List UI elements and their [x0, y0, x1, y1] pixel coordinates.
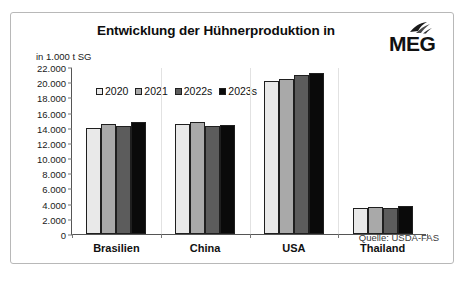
- y-axis-tick-label: 22.000: [37, 63, 66, 74]
- x-axis-category-label: China: [190, 242, 221, 254]
- chart-card: Entwicklung der Hühnerproduktion in MEG …: [10, 12, 454, 264]
- plot-frame: 02.0004.0006.0008.00010.00012.00014.0001…: [71, 68, 426, 235]
- y-axis-unit-label: in 1.000 t SG: [36, 51, 91, 62]
- bar-group: [161, 68, 250, 234]
- meg-wordmark: MEG: [389, 33, 435, 54]
- bar: [368, 207, 383, 234]
- bar: [220, 125, 235, 234]
- meg-logo: MEG: [389, 20, 441, 56]
- y-axis-tick-label: 20.000: [37, 78, 66, 89]
- page-title: Entwicklung der Hühnerproduktion in: [51, 23, 381, 38]
- bar: [264, 81, 279, 234]
- bar-group: [338, 68, 427, 234]
- bar: [398, 206, 413, 234]
- bar: [279, 79, 294, 234]
- x-axis-tick-mark: [338, 234, 339, 238]
- x-axis-tick-mark: [161, 234, 162, 238]
- bar-group: [72, 68, 161, 234]
- bar: [205, 126, 220, 234]
- bar: [353, 208, 368, 234]
- bar: [309, 73, 324, 234]
- y-axis-tick-label: 6.000: [42, 184, 66, 195]
- bar: [116, 126, 131, 234]
- y-axis-tick-label: 10.000: [37, 154, 66, 165]
- plot-area: 02.0004.0006.0008.00010.00012.00014.0001…: [71, 68, 426, 235]
- y-axis-tick-label: 2.000: [42, 214, 66, 225]
- bar: [294, 75, 309, 234]
- bar: [383, 208, 398, 234]
- bar: [101, 124, 116, 234]
- x-axis-category-label: Brasilien: [93, 242, 139, 254]
- bar-group: [250, 68, 339, 234]
- x-axis-category-label: USA: [282, 242, 305, 254]
- y-axis-tick-label: 16.000: [37, 108, 66, 119]
- y-axis-tick-label: 0: [61, 230, 66, 241]
- bar: [131, 122, 146, 234]
- source-note: Quelle: USDA-FAS: [359, 232, 439, 243]
- x-axis-tick-mark: [250, 234, 251, 238]
- x-axis-category-label: Thailand: [360, 242, 405, 254]
- bar: [190, 122, 205, 234]
- y-axis-tick-label: 8.000: [42, 169, 66, 180]
- bar: [86, 128, 101, 234]
- y-axis-tick-label: 14.000: [37, 123, 66, 134]
- x-axis-tick-mark: [72, 234, 73, 238]
- bar: [175, 124, 190, 234]
- y-axis-tick-label: 18.000: [37, 93, 66, 104]
- y-axis-tick-label: 4.000: [42, 199, 66, 210]
- y-axis-tick-label: 12.000: [37, 138, 66, 149]
